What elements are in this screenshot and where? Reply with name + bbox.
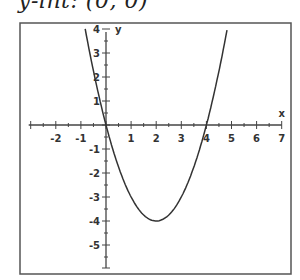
y-tick-label: -2	[89, 168, 100, 179]
x-tick-label: 5	[228, 133, 235, 144]
x-tick-label: 7	[278, 133, 285, 144]
y-tick-label: -4	[89, 216, 100, 227]
y-tick-label: -3	[89, 192, 100, 203]
plot-frame	[20, 23, 291, 274]
parabola-chart: -2-112345674321-1-2-3-4-5xy	[0, 0, 300, 280]
x-tick-label: 6	[253, 133, 260, 144]
x-tick-label: 1	[128, 133, 135, 144]
y-tick-label: 3	[93, 48, 100, 59]
x-tick-label: -1	[75, 133, 86, 144]
y-axis-label: y	[115, 24, 122, 35]
x-axis-label: x	[278, 108, 285, 119]
x-tick-label: 3	[178, 133, 185, 144]
x-tick-label: -2	[50, 133, 61, 144]
x-tick-label: 2	[153, 133, 160, 144]
y-tick-label: -1	[89, 144, 100, 155]
y-tick-label: -5	[89, 240, 100, 251]
y-tick-label: 4	[93, 24, 100, 35]
